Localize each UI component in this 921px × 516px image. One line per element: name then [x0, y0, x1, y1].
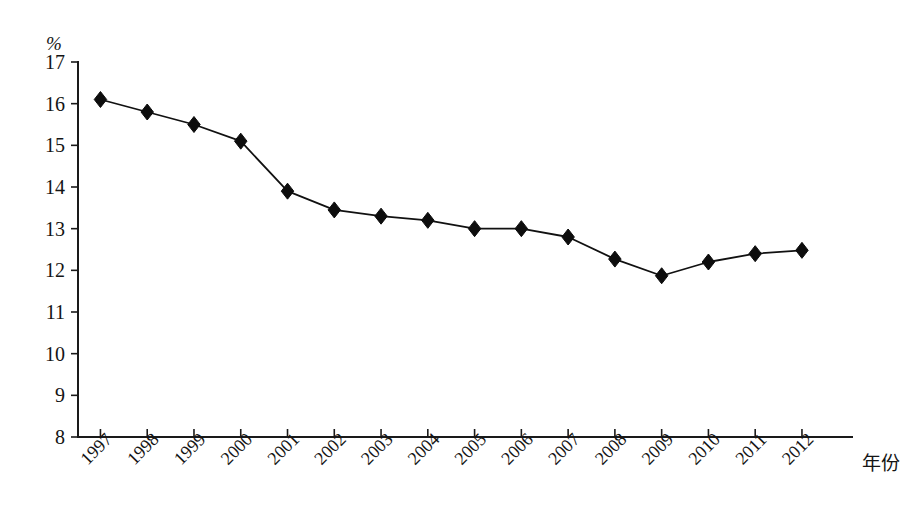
y-axis-ticks [71, 62, 78, 437]
y-tick-label: 13 [45, 218, 65, 240]
x-tick-label: 2012 [778, 429, 818, 469]
data-point-marker [422, 212, 434, 228]
data-point-markers [94, 92, 808, 284]
data-point-marker [609, 251, 621, 267]
x-axis-tick-labels: 1997199819992000200120022003200420052006… [76, 429, 817, 469]
x-tick-label: 1998 [123, 429, 163, 469]
y-tick-label: 15 [45, 134, 65, 156]
x-axis-title: 年份 [862, 453, 900, 474]
data-point-marker [655, 268, 667, 284]
x-tick-label: 2003 [357, 429, 397, 469]
data-point-marker [562, 229, 574, 245]
x-tick-label: 2007 [544, 429, 584, 469]
y-tick-label: 9 [55, 384, 65, 406]
y-tick-label: 10 [45, 343, 65, 365]
x-tick-label: 2010 [684, 429, 724, 469]
data-point-marker [749, 246, 761, 262]
data-point-marker [702, 254, 714, 270]
x-tick-label: 2002 [310, 429, 350, 469]
x-tick-label: 2009 [638, 429, 678, 469]
data-point-marker [328, 202, 340, 218]
x-tick-label: 1999 [170, 429, 210, 469]
x-tick-label: 2011 [731, 429, 770, 468]
x-tick-label: 2008 [591, 429, 631, 469]
x-tick-label: 2001 [263, 429, 303, 469]
data-point-marker [188, 117, 200, 133]
y-tick-label: 12 [45, 259, 65, 281]
data-point-marker [515, 221, 527, 237]
x-tick-label: 2000 [217, 429, 257, 469]
line-chart: % 171615141312111098 1997199819992000200… [0, 0, 921, 516]
y-tick-label: 14 [45, 176, 65, 198]
x-tick-label: 1997 [76, 429, 116, 469]
data-point-marker [141, 104, 153, 120]
y-tick-label: 16 [45, 93, 65, 115]
data-point-marker [94, 92, 106, 108]
x-tick-label: 2004 [404, 429, 444, 469]
data-point-marker [468, 221, 480, 237]
chart-container: % 171615141312111098 1997199819992000200… [0, 0, 921, 516]
x-tick-label: 2006 [497, 429, 537, 469]
y-axis-tick-labels: 171615141312111098 [45, 51, 65, 448]
y-tick-label: 8 [55, 426, 65, 448]
x-tick-label: 2005 [451, 429, 491, 469]
x-axis-ticks [100, 429, 802, 437]
data-point-marker [796, 242, 808, 258]
y-tick-label: 17 [45, 51, 65, 73]
y-tick-label: 11 [46, 301, 65, 323]
data-point-marker [375, 208, 387, 224]
data-line-series [100, 100, 802, 276]
